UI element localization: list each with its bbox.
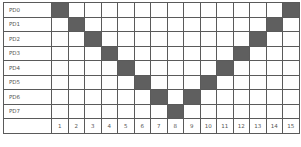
empty-cell: [250, 90, 267, 105]
grid-row: PD5: [4, 75, 300, 90]
empty-cell: [283, 90, 300, 105]
filled-cell: [101, 46, 118, 61]
empty-cell: [85, 75, 102, 90]
filled-cell: [151, 90, 168, 105]
empty-cell: [266, 32, 283, 47]
column-number: 9: [184, 119, 201, 134]
empty-cell: [217, 46, 234, 61]
empty-cell: [266, 104, 283, 119]
empty-cell: [68, 32, 85, 47]
filled-cell: [217, 61, 234, 76]
empty-cell: [233, 75, 250, 90]
column-number: 5: [118, 119, 135, 134]
row-label: PD5: [4, 75, 52, 90]
empty-cell: [85, 90, 102, 105]
empty-cell: [283, 17, 300, 32]
empty-cell: [200, 90, 217, 105]
filled-cell: [85, 32, 102, 47]
grid-row: PD1: [4, 17, 300, 32]
row-label: PD7: [4, 104, 52, 119]
empty-cell: [85, 61, 102, 76]
empty-cell: [101, 75, 118, 90]
empty-cell: [151, 104, 168, 119]
empty-cell: [167, 32, 184, 47]
empty-cell: [283, 75, 300, 90]
empty-cell: [266, 75, 283, 90]
empty-cell: [52, 46, 69, 61]
empty-cell: [101, 104, 118, 119]
empty-cell: [68, 3, 85, 18]
empty-cell: [134, 61, 151, 76]
empty-cell: [68, 46, 85, 61]
empty-cell: [217, 90, 234, 105]
row-label: PD2: [4, 32, 52, 47]
empty-cell: [118, 90, 135, 105]
filled-cell: [266, 17, 283, 32]
filled-cell: [233, 46, 250, 61]
filled-cell: [283, 3, 300, 18]
filled-cell: [167, 104, 184, 119]
empty-cell: [283, 46, 300, 61]
filled-cell: [68, 17, 85, 32]
column-number: 7: [151, 119, 168, 134]
empty-cell: [184, 17, 201, 32]
empty-cell: [233, 61, 250, 76]
empty-cell: [266, 3, 283, 18]
empty-cell: [233, 104, 250, 119]
column-number: 1: [52, 119, 69, 134]
empty-cell: [134, 104, 151, 119]
row-label: PD0: [4, 3, 52, 18]
empty-cell: [217, 75, 234, 90]
empty-cell: [167, 75, 184, 90]
empty-cell: [118, 3, 135, 18]
empty-cell: [151, 32, 168, 47]
row-label: PD4: [4, 61, 52, 76]
empty-cell: [134, 17, 151, 32]
column-number: 6: [134, 119, 151, 134]
empty-cell: [200, 104, 217, 119]
empty-cell: [266, 46, 283, 61]
grid-row: PD7: [4, 104, 300, 119]
filled-cell: [200, 75, 217, 90]
column-number: 14: [266, 119, 283, 134]
empty-cell: [101, 3, 118, 18]
empty-cell: [68, 104, 85, 119]
empty-cell: [52, 75, 69, 90]
empty-cell: [134, 46, 151, 61]
empty-cell: [266, 61, 283, 76]
grid-row: PD3: [4, 46, 300, 61]
grid-row: PD0: [4, 3, 300, 18]
empty-cell: [151, 75, 168, 90]
empty-cell: [118, 104, 135, 119]
empty-cell: [200, 61, 217, 76]
column-number: 4: [101, 119, 118, 134]
empty-cell: [250, 75, 267, 90]
empty-cell: [200, 17, 217, 32]
row-label: PD1: [4, 17, 52, 32]
filled-cell: [250, 32, 267, 47]
empty-cell: [85, 17, 102, 32]
column-number: 12: [233, 119, 250, 134]
empty-cell: [250, 61, 267, 76]
empty-cell: [85, 46, 102, 61]
empty-cell: [68, 61, 85, 76]
empty-cell: [68, 90, 85, 105]
filled-cell: [134, 75, 151, 90]
empty-cell: [167, 46, 184, 61]
column-number: 8: [167, 119, 184, 134]
filled-cell: [118, 61, 135, 76]
row-label: PD3: [4, 46, 52, 61]
empty-cell: [85, 3, 102, 18]
empty-cell: [250, 3, 267, 18]
empty-cell: [151, 61, 168, 76]
empty-cell: [200, 3, 217, 18]
empty-cell: [250, 17, 267, 32]
filled-cell: [184, 90, 201, 105]
empty-cell: [250, 46, 267, 61]
empty-cell: [167, 17, 184, 32]
row-label: PD6: [4, 90, 52, 105]
empty-cell: [101, 90, 118, 105]
empty-cell: [85, 104, 102, 119]
empty-cell: [184, 104, 201, 119]
timing-grid: PD0PD1PD2PD3PD4PD5PD6PD71234567891011121…: [3, 2, 300, 134]
